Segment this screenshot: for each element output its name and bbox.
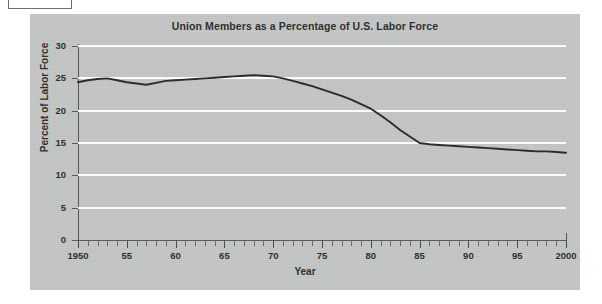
crop-artifact-box (8, 0, 72, 9)
series-line-union-membership (78, 75, 566, 153)
chart-panel: Union Members as a Percentage of U.S. La… (30, 14, 580, 290)
chart-figure: Union Members as a Percentage of U.S. La… (0, 0, 602, 304)
x-axis-label: Year (30, 266, 580, 277)
data-line-layer (30, 14, 580, 290)
